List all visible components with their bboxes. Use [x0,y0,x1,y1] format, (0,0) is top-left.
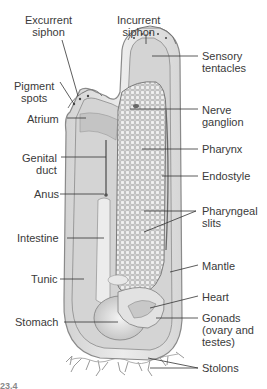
label-line: siphon [117,26,160,38]
label-genital-duct: Genital duct [22,152,57,176]
label-line: Pharyngeal [202,205,258,217]
label-line: Heart [202,291,229,303]
label-line: Stolons [202,362,239,374]
label-line: Endostyle [202,170,250,182]
label-tunic: Tunic [31,273,58,285]
label-line: (ovary and [202,324,254,336]
label-line: Incurrent [117,14,160,26]
label-atrium: Atrium [27,113,59,125]
label-stolons: Stolons [202,362,239,374]
label-stomach: Stomach [15,316,58,328]
label-line: Gonads [202,312,254,324]
label-line: ganglion [202,116,244,128]
intestine-graphic [96,198,110,303]
label-line: duct [22,164,57,176]
label-incurrent-siphon: Incurrent siphon [117,14,160,38]
label-pigment-spots: Pigment spots [14,80,54,104]
label-line: Sensory [202,50,246,62]
label-endostyle: Endostyle [202,170,250,182]
label-line: slits [202,217,258,229]
label-nerve-ganglion: Nerve ganglion [202,104,244,128]
label-line: Genital [22,152,57,164]
label-line: Pharynx [202,143,242,155]
label-line: Anus [34,188,59,200]
label-line: spots [14,92,54,104]
label-line: Nerve [202,104,244,116]
label-line: Stomach [15,316,58,328]
label-intestine: Intestine [17,232,59,244]
label-anus: Anus [34,188,59,200]
label-pharynx: Pharynx [202,143,242,155]
label-line: siphon [25,26,72,38]
label-gonads: Gonads (ovary and testes) [202,312,254,348]
label-line: Excurrent [25,14,72,26]
label-line: testes) [202,336,254,348]
figure-caption-partial: 23.4 [0,381,18,389]
anus-graphic [104,193,108,197]
label-sensory-tentacles: Sensory tentacles [202,50,246,74]
label-line: tentacles [202,62,246,74]
label-excurrent-siphon: Excurrent siphon [25,14,72,38]
label-line: Tunic [31,273,58,285]
label-line: Pigment [14,80,54,92]
label-line: Intestine [17,232,59,244]
label-mantle: Mantle [202,260,235,272]
label-pharyngeal-slits: Pharyngeal slits [202,205,258,229]
label-line: Atrium [27,113,59,125]
pharynx-graphic [116,82,166,296]
label-heart: Heart [202,291,229,303]
label-line: Mantle [202,260,235,272]
